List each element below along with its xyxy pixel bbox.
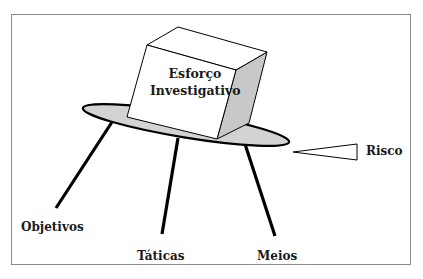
risk-wedge xyxy=(293,144,357,160)
label-meios: Meios xyxy=(257,250,297,262)
box-label-line1: Esforço xyxy=(150,65,240,82)
box-label-line2: Investigativo xyxy=(150,82,240,99)
diagram-canvas xyxy=(0,0,423,279)
label-objetivos: Objetivos xyxy=(21,221,84,233)
label-taticas: Táticas xyxy=(137,250,185,262)
label-risco: Risco xyxy=(366,145,403,157)
leg-taticas xyxy=(162,138,178,234)
leg-meios xyxy=(245,144,275,236)
leg-objetivos xyxy=(56,122,112,208)
box-label: Esforço Investigativo xyxy=(150,65,240,99)
